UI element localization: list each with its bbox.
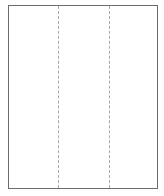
center-panel [59,6,109,188]
trifold-page-outline [8,5,158,189]
right-panel [110,6,157,188]
left-panel [9,6,58,188]
